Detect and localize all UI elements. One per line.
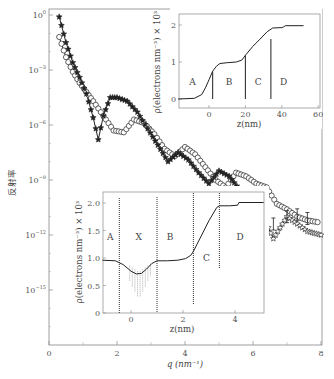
main-x-tick-label: 6 — [250, 349, 255, 358]
bottom-inset-x-tick-label: 0 — [128, 315, 133, 324]
main-y-tick-label: 10−6 — [28, 119, 46, 130]
bottom-inset: 00.51.01.52.0024AXBCD ρ(electrons nm⁻³) … — [74, 186, 269, 334]
top-inset-y-tick-label: 2 — [171, 21, 176, 30]
main-x-tick-label: 0 — [46, 349, 51, 358]
bottom-inset-region-label: D — [237, 232, 244, 242]
top-inset-region-label: B — [226, 77, 233, 87]
star-marker — [88, 107, 94, 112]
top-inset-x-tick-label: 20 — [240, 110, 250, 119]
main-x-axis-title: q (nm⁻¹) — [167, 359, 203, 369]
bottom-inset-region-label: A — [106, 232, 114, 242]
star-marker — [98, 125, 104, 130]
top-inset-region-label: C — [255, 77, 262, 87]
star-marker — [56, 14, 62, 19]
main-y-axis-title: 反射率 — [7, 169, 17, 196]
star-marker — [105, 101, 111, 106]
main-y-tick-label: 10−15 — [25, 284, 46, 295]
bottom-inset-y-tick-label: 2.0 — [87, 199, 100, 208]
circle-marker — [315, 220, 320, 225]
top-inset-region-label: D — [280, 77, 287, 87]
main-x-tick-label: 4 — [182, 349, 187, 358]
bottom-inset-x-axis-title: z(nm) — [170, 324, 195, 334]
star-marker — [59, 22, 65, 27]
main-y-tick-label: 10−12 — [25, 229, 46, 240]
top-inset-x-axis-title: z(nm) — [237, 119, 262, 129]
bottom-inset-y-tick-label: 1.0 — [87, 254, 100, 263]
star-marker — [90, 115, 96, 120]
star-marker — [93, 126, 99, 131]
main-x-tick-label: 2 — [114, 349, 119, 358]
top-inset-y-axis-title: ρ(electrons nm⁻³) × 10³ — [152, 11, 162, 113]
bottom-inset-x-tick-label: 4 — [232, 315, 237, 324]
main-y-tick-label: 10−3 — [28, 64, 46, 75]
main-x-tick-label: 8 — [318, 349, 323, 358]
main-y-tick-label: 100 — [33, 9, 46, 20]
top-inset-x-tick-label: 60 — [313, 110, 323, 119]
reflectivity-figure: 10010−310−610−910−1210−15 02468 反射率 q (n… — [0, 0, 334, 379]
main-x-axis-ticks: 02468 — [46, 341, 323, 358]
top-inset-region-label: A — [188, 77, 196, 87]
main-y-tick-label: 10−9 — [28, 174, 46, 185]
bottom-inset-region-label: X — [136, 232, 143, 242]
top-inset-x-tick-label: 0 — [206, 110, 211, 119]
top-inset-y-tick-label: 0 — [171, 95, 176, 104]
top-inset: 0120204060ABCD ρ(electrons nm⁻³) × 10³ z… — [152, 4, 323, 129]
circle-marker — [57, 34, 62, 39]
bottom-inset-y-tick-label: 0 — [95, 309, 100, 318]
top-inset-x-tick-label: 40 — [277, 110, 287, 119]
bottom-inset-x-tick-label: 2 — [180, 315, 185, 324]
bottom-inset-region-label: C — [203, 253, 210, 263]
bottom-inset-region-label: B — [167, 232, 174, 242]
bottom-inset-y-tick-label: 1.5 — [87, 227, 100, 236]
bottom-inset-y-tick-label: 0.5 — [87, 282, 100, 291]
star-marker — [95, 137, 101, 142]
top-inset-y-tick-label: 1 — [171, 58, 176, 67]
bottom-inset-y-axis-title: ρ(electrons nm⁻³) × 10³ — [74, 201, 84, 303]
